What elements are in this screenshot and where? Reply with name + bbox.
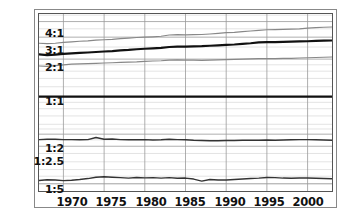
x-tick-label-1970: 1970 [52,196,92,208]
y-tick-label-1to2: 1:2 [4,143,64,154]
x-tick-label-1980: 1980 [131,196,171,208]
y-tick-label-1to5: 1:5 [4,184,64,195]
x-tick-label-1975: 1975 [91,196,131,208]
x-tick-label-2000: 2000 [288,196,328,208]
y-tick-label-1to1: 1:1 [4,96,64,107]
chart-canvas [39,14,332,191]
x-tick-label-1985: 1985 [170,196,210,208]
y-tick-label-2to1: 2:1 [4,62,64,73]
chart-screenshot: 4:1 3:1 2:1 1:1 1:2 1:2.5 1:5 1970 1975 … [0,0,341,223]
y-tick-label-4to1: 4:1 [4,28,64,39]
y-tick-label-3to1: 3:1 [4,45,64,56]
x-tick-label-1990: 1990 [210,196,250,208]
chart-plot-area [38,13,333,192]
y-tick-label-1to2p5: 1:2.5 [4,156,64,167]
x-tick-label-1995: 1995 [249,196,289,208]
